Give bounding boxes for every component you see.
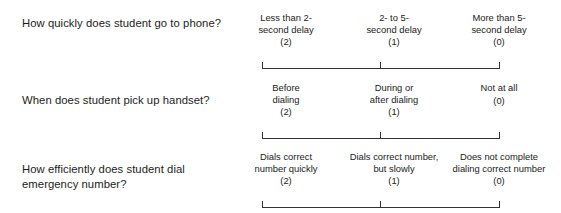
anchor-description: 2- to 5- second delay: [338, 12, 450, 35]
anchor-score: (0): [452, 95, 546, 107]
anchor-score: (2): [238, 36, 334, 48]
anchor-option[interactable]: Does not complete dialing correct number…: [452, 151, 546, 187]
anchor-label-group: Dials correct number quickly (2) Dials c…: [238, 151, 546, 195]
anchor-description: During or after dialing: [338, 82, 450, 105]
question-label: How efficiently does student dial emerge…: [22, 162, 237, 191]
anchor-score: (0): [452, 175, 546, 187]
anchor-description: Not at all: [452, 82, 546, 94]
anchor-description: Before dialing: [238, 82, 334, 105]
scale-axis[interactable]: [262, 129, 500, 139]
anchor-option[interactable]: Before dialing (2): [238, 82, 334, 118]
anchor-description: Dials correct number quickly: [238, 151, 334, 174]
anchor-option[interactable]: 2- to 5- second delay (1): [338, 12, 450, 48]
rating-scale-item: How quickly does student go to phone? Le…: [0, 4, 561, 72]
scale-tick-middle: [380, 201, 381, 208]
anchor-score: (1): [338, 36, 450, 48]
scale-tick-middle: [380, 62, 381, 69]
anchor-score: (1): [338, 106, 450, 118]
anchor-description: Less than 2- second delay: [238, 12, 334, 35]
scale-tick-middle: [380, 132, 381, 139]
anchor-option[interactable]: Dials correct number, but slowly (1): [338, 151, 450, 187]
rating-scale-item: How efficiently does student dial emerge…: [0, 143, 561, 211]
anchor-description: Dials correct number, but slowly: [338, 151, 450, 174]
scale-tick-left: [262, 62, 263, 69]
scale-tick-right: [499, 132, 500, 139]
scale-tick-right: [499, 62, 500, 69]
scale-tick-left: [262, 201, 263, 208]
anchor-option[interactable]: Not at all (0): [452, 82, 546, 106]
anchor-score: (1): [338, 175, 450, 187]
question-label: How quickly does student go to phone?: [22, 16, 237, 31]
anchor-score: (2): [238, 106, 334, 118]
anchor-label-group: Less than 2- second delay (2) 2- to 5- s…: [238, 12, 546, 56]
anchor-label-group: Before dialing (2) During or after diali…: [238, 82, 546, 126]
rating-scale-form: How quickly does student go to phone? Le…: [0, 0, 561, 213]
anchor-description: More than 5- second delay: [452, 12, 546, 35]
question-label: When does student pick up handset?: [22, 93, 237, 108]
anchor-option[interactable]: Less than 2- second delay (2): [238, 12, 334, 48]
anchor-option[interactable]: Dials correct number quickly (2): [238, 151, 334, 187]
scale-tick-left: [262, 132, 263, 139]
anchor-score: (2): [238, 175, 334, 187]
anchor-option[interactable]: More than 5- second delay (0): [452, 12, 546, 48]
anchor-description: Does not complete dialing correct number: [452, 151, 546, 174]
anchor-option[interactable]: During or after dialing (1): [338, 82, 450, 118]
scale-axis[interactable]: [262, 59, 500, 69]
anchor-score: (0): [452, 36, 546, 48]
scale-axis[interactable]: [262, 198, 500, 208]
rating-scale-item: When does student pick up handset? Befor…: [0, 74, 561, 142]
scale-tick-right: [499, 201, 500, 208]
